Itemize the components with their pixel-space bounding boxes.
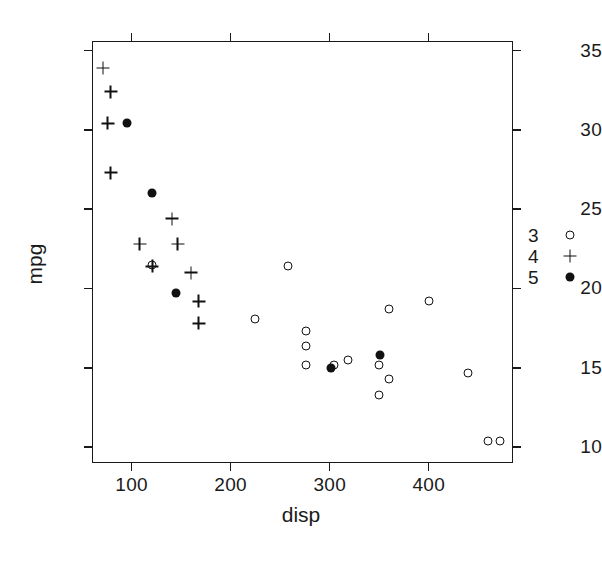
data-point bbox=[424, 297, 433, 306]
y-axis-tick bbox=[513, 288, 521, 289]
x-axis-tick bbox=[131, 463, 132, 471]
data-point bbox=[166, 212, 179, 225]
y-axis-tick bbox=[84, 129, 92, 130]
x-axis-tick bbox=[230, 463, 231, 471]
data-point bbox=[301, 360, 310, 369]
data-point bbox=[284, 262, 293, 271]
x-axis-tick bbox=[329, 463, 330, 471]
legend-item: 5 bbox=[528, 267, 598, 288]
data-point bbox=[192, 295, 205, 308]
y-axis-tick bbox=[513, 208, 521, 209]
data-point bbox=[172, 289, 181, 298]
y-axis-tick bbox=[513, 50, 521, 51]
y-axis-tick bbox=[513, 129, 521, 130]
data-point bbox=[251, 314, 260, 323]
legend-item-label: 5 bbox=[528, 267, 539, 289]
legend-marker-glyph bbox=[566, 273, 575, 282]
data-point bbox=[104, 166, 117, 179]
legend-marker-glyph bbox=[564, 250, 577, 263]
x-tick-label: 400 bbox=[394, 474, 464, 496]
y-tick-label: 15 bbox=[524, 357, 602, 379]
y-axis-tick bbox=[84, 288, 92, 289]
data-point bbox=[122, 119, 131, 128]
data-point bbox=[326, 363, 335, 372]
data-point bbox=[376, 351, 385, 360]
scatter-plot-figure: 353025201510 100200300400 mpg disp 345 bbox=[0, 0, 602, 565]
legend-marker-glyph bbox=[566, 231, 575, 240]
y-axis-tick bbox=[84, 50, 92, 51]
data-point bbox=[343, 355, 352, 364]
x-axis-tick bbox=[428, 463, 429, 471]
y-axis-tick bbox=[84, 446, 92, 447]
data-point bbox=[185, 266, 198, 279]
y-tick-label: 25 bbox=[524, 198, 602, 220]
data-point bbox=[301, 327, 310, 336]
y-tick-label: 35 bbox=[524, 40, 602, 62]
y-tick-label: 10 bbox=[524, 436, 602, 458]
y-axis-tick bbox=[84, 208, 92, 209]
x-axis-tick bbox=[428, 33, 429, 41]
data-point bbox=[192, 317, 205, 330]
x-tick-label: 300 bbox=[295, 474, 365, 496]
data-point bbox=[464, 368, 473, 377]
legend-item-label: 4 bbox=[528, 246, 539, 268]
data-point bbox=[385, 305, 394, 314]
data-point bbox=[375, 360, 384, 369]
data-point bbox=[96, 61, 109, 74]
legend-item-label: 3 bbox=[528, 225, 539, 247]
legend-item: 3 bbox=[528, 225, 598, 246]
data-point bbox=[104, 85, 117, 98]
data-point bbox=[147, 189, 156, 198]
data-point bbox=[385, 374, 394, 383]
data-point bbox=[484, 436, 493, 445]
x-tick-label: 200 bbox=[196, 474, 266, 496]
x-axis-tick bbox=[329, 33, 330, 41]
x-axis-tick bbox=[131, 33, 132, 41]
data-point bbox=[146, 260, 159, 273]
data-point bbox=[171, 238, 184, 251]
y-axis-tick bbox=[513, 367, 521, 368]
y-axis-title: mpg bbox=[23, 219, 47, 309]
y-tick-label: 30 bbox=[524, 119, 602, 141]
data-point bbox=[375, 390, 384, 399]
x-tick-label: 100 bbox=[97, 474, 167, 496]
data-point bbox=[133, 238, 146, 251]
x-axis-tick bbox=[230, 33, 231, 41]
data-point bbox=[496, 436, 505, 445]
legend-item: 4 bbox=[528, 246, 598, 267]
x-axis-title: disp bbox=[0, 503, 602, 527]
plot-area-frame bbox=[92, 41, 513, 463]
y-axis-tick bbox=[84, 367, 92, 368]
legend: 345 bbox=[528, 225, 598, 288]
data-point bbox=[101, 117, 114, 130]
y-axis-tick bbox=[513, 446, 521, 447]
data-point bbox=[301, 341, 310, 350]
